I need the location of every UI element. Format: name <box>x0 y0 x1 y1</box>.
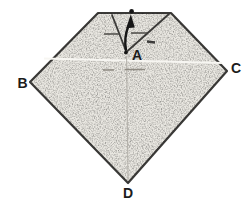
origami-diagram: A B C D <box>0 0 252 207</box>
point-a-dot <box>124 51 128 55</box>
target-point-dot <box>129 9 134 14</box>
paper-texture <box>30 13 227 183</box>
vertex-label-d: D <box>123 185 133 201</box>
vertex-label-b: B <box>17 75 27 91</box>
ink-smudge-mark <box>147 42 155 43</box>
origami-step-figure: A B C D <box>0 0 252 207</box>
vertex-label-a: A <box>132 47 142 63</box>
vertex-label-c: C <box>231 60 241 76</box>
